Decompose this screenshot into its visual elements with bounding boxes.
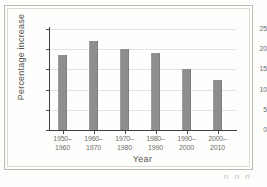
x-axis-tick-label-line: 1980 — [108, 144, 142, 153]
bar — [151, 53, 160, 130]
x-axis-tick-label-line: 1990– — [170, 135, 204, 144]
x-axis-tick-label: 1990–2000 — [170, 135, 204, 152]
bar — [58, 55, 67, 130]
x-axis-tick-label: 2000–2010 — [201, 135, 235, 152]
x-axis-tick-label-line: 1950– — [46, 135, 80, 144]
x-axis-tick — [94, 131, 95, 134]
bar — [182, 69, 191, 130]
x-axis-title-text: Year — [133, 154, 152, 164]
bar — [213, 80, 222, 130]
scan-artifact-marks: n n n — [224, 172, 264, 184]
bar — [89, 41, 98, 130]
x-axis-tick-label-line: 1960– — [77, 135, 111, 144]
x-axis-tick — [187, 131, 188, 134]
x-axis-tick-label-line: 1970– — [108, 135, 142, 144]
x-axis-tick — [218, 131, 219, 134]
plot-area — [50, 29, 236, 130]
x-axis-tick-label-line: 2000– — [201, 135, 235, 144]
x-axis-tick-label: 1960–1970 — [77, 135, 111, 152]
x-axis-tick-label: 1980–1990 — [139, 135, 173, 152]
x-axis-tick-label: 1950–1960 — [46, 135, 80, 152]
x-axis-tick-label-line: 1970 — [77, 144, 111, 153]
y-axis-title: Percentage increase — [16, 9, 26, 105]
x-axis-tick-label-line: 1980– — [139, 135, 173, 144]
x-axis-tick-label-line: 2010 — [201, 144, 235, 153]
x-axis-tick-label-line: 2000 — [170, 144, 204, 153]
x-axis-tick — [125, 131, 126, 134]
x-axis-title: Year — [0, 154, 267, 164]
x-axis-tick-label-line: 1960 — [46, 144, 80, 153]
x-axis-tick — [156, 131, 157, 134]
y-axis-tick — [46, 130, 50, 131]
x-axis-tick-label-line: 1990 — [139, 144, 173, 153]
x-axis-tick — [63, 131, 64, 134]
bar — [120, 49, 129, 130]
x-axis-line — [49, 130, 237, 131]
x-axis-tick-label: 1970–1980 — [108, 135, 142, 152]
